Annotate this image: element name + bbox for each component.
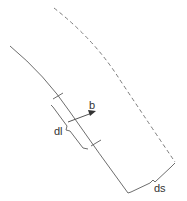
segment-label: dl [54,125,63,137]
segment-tick-top [53,93,63,99]
diagram-canvas: b dl ds [0,0,187,201]
segment-tick-bottom [91,140,101,146]
dashed-curve [54,8,175,162]
arrow-label: b [89,99,95,111]
solid-curve [10,46,128,193]
separation-brace [128,163,175,193]
separation-label: ds [154,182,166,194]
